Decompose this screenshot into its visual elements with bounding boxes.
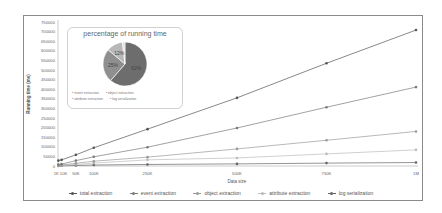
svg-text:Data size: Data size (228, 179, 247, 184)
svg-text:250K: 250K (143, 171, 153, 176)
svg-text:12%: 12% (114, 50, 125, 56)
svg-text:200000: 200000 (41, 125, 56, 130)
svg-text:100K: 100K (89, 171, 99, 176)
pie-chart: 62%25%12%2% (68, 36, 182, 96)
svg-text:550000: 550000 (41, 58, 56, 63)
svg-text:250000: 250000 (41, 116, 56, 121)
svg-text:500000: 500000 (41, 68, 56, 73)
svg-text:750000: 750000 (41, 20, 56, 25)
svg-text:400000: 400000 (41, 87, 56, 92)
svg-text:300000: 300000 (41, 106, 56, 111)
svg-text:750K: 750K (322, 171, 332, 176)
svg-text:1K: 1K (54, 171, 59, 176)
chart-legend: total extraction event extraction object… (0, 190, 442, 196)
svg-text:0: 0 (53, 164, 56, 169)
legend-item-attribute: attribute extraction (258, 190, 310, 196)
legend-item-object: object extraction (193, 190, 240, 196)
pie-legend-item: • attribute extraction (72, 97, 103, 101)
svg-text:10K: 10K (60, 171, 68, 176)
legend-item-event: event extraction (130, 190, 176, 196)
legend-item-log: log serialization (328, 190, 373, 196)
svg-text:650000: 650000 (41, 39, 56, 44)
svg-text:1M: 1M (413, 171, 419, 176)
pie-legend-item: • event extraction (72, 91, 99, 95)
legend-item-total: total extraction (69, 190, 113, 196)
pie-inset: percentage of running time 62%25%12%2% •… (67, 27, 183, 109)
pie-legend-item: • log serialization (110, 97, 136, 101)
svg-text:700000: 700000 (41, 29, 56, 34)
pie-legend-item: • object extraction (106, 91, 134, 95)
svg-text:450000: 450000 (41, 77, 56, 82)
svg-text:25%: 25% (108, 62, 119, 68)
svg-text:50K: 50K (72, 171, 80, 176)
svg-text:100000: 100000 (41, 144, 56, 149)
svg-text:600000: 600000 (41, 48, 56, 53)
svg-text:50000: 50000 (43, 154, 55, 159)
pie-legend: • event extraction • object extraction •… (72, 90, 178, 102)
svg-text:150000: 150000 (41, 135, 56, 140)
svg-text:350000: 350000 (41, 96, 56, 101)
svg-text:2%: 2% (123, 36, 131, 37)
svg-text:500K: 500K (232, 171, 242, 176)
svg-text:62%: 62% (131, 65, 142, 71)
svg-text:Running time (ms): Running time (ms) (26, 74, 31, 114)
